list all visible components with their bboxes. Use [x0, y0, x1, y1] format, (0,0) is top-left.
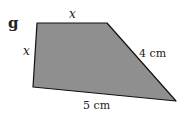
top-side-label: x	[69, 7, 76, 21]
diagram-canvas: g x x 4 cm 5 cm	[0, 0, 189, 118]
right-side-label: 4 cm	[139, 47, 167, 60]
bottom-side-label: 5 cm	[83, 99, 111, 112]
quadrilateral-shape	[33, 23, 176, 101]
figure-label: g	[8, 14, 19, 32]
left-side-label: x	[23, 44, 30, 58]
